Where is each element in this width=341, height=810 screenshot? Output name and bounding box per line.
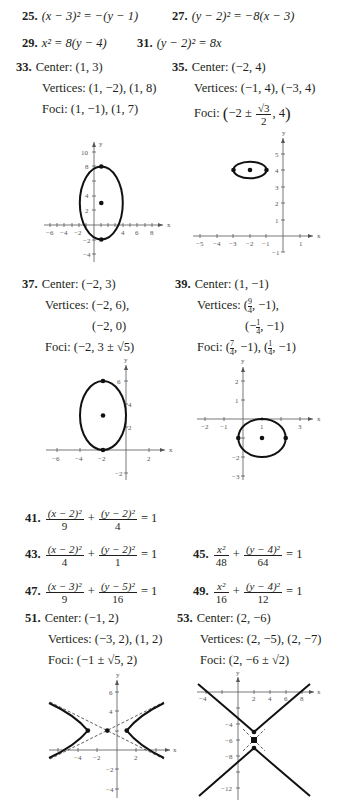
answer-number: 43. (25, 547, 41, 561)
answer-number: 25. (22, 9, 38, 23)
y-tick-label: 1 (235, 397, 239, 405)
x-tick-label: 2 (134, 754, 138, 762)
answer-47: 47.(x − 3)²9 + (y − 5)²16 = 1 (25, 575, 157, 607)
answer-31: 31.(y − 2)² = 8x (137, 36, 222, 50)
answer-49: 49.x²16 + (y − 4)²12 = 1 (193, 575, 302, 607)
y-tick-label: −4 (106, 786, 114, 794)
vertex-value: , −1) (260, 319, 284, 333)
foci-label: Foci: (194, 106, 220, 120)
numerator: x² (214, 580, 229, 593)
x-tick-label: 6 (135, 229, 139, 237)
x-tick-label: 8 (150, 229, 154, 237)
fraction: (x − 3)²9 (46, 580, 84, 605)
x-tick-label: −4 (74, 754, 82, 762)
answer-35-center: 35.Center: (−2, 4) (172, 60, 266, 74)
vertices-label: Vertices: (197, 298, 241, 312)
x-tick-label: 4 (268, 695, 272, 703)
foci-value: −2 ± (229, 106, 252, 120)
x-axis-label: x (317, 415, 321, 423)
answer-equation: (x − 3)² = −(y − 1) (42, 9, 138, 23)
x-tick-label: −4 (60, 229, 68, 237)
x-tick-label: −4 (75, 455, 83, 463)
answer-43: 43.(x − 2)²4 + (y − 2)²1 = 1 (25, 538, 157, 570)
equation-rhs: = 1 (141, 584, 157, 598)
numerator: (x − 3)² (46, 580, 84, 593)
fraction: (x − 2)²4 (46, 543, 84, 568)
x-tick-label: −5 (196, 240, 204, 248)
answer-39-vertices-2: (−14, −1) (245, 319, 284, 336)
denominator: 64 (244, 556, 282, 568)
answer-51-foci: Foci: (−1 ± √5, 2) (48, 653, 137, 667)
denominator: 9 (46, 593, 84, 605)
x-tick-label: 1 (260, 423, 264, 431)
center-text: Center: (1, 3) (36, 60, 103, 74)
answer-number: 29. (22, 36, 38, 50)
answer-33-vertices: Vertices: (1, −2), (1, 8) (42, 81, 156, 95)
y-tick-label: −6 (225, 737, 233, 745)
denominator: 12 (244, 593, 282, 605)
y-tick-label: 2 (275, 200, 279, 208)
answer-number: 37. (22, 277, 38, 291)
numerator: (y − 4)² (244, 543, 282, 556)
x-tick-label: −6 (52, 455, 60, 463)
x-tick-label: 8 (300, 695, 304, 703)
answer-number: 35. (172, 60, 188, 74)
equation-rhs: = 1 (286, 547, 302, 561)
y-tick-label: 2 (128, 424, 132, 432)
x-tick-label: 2 (147, 455, 151, 463)
y-tick-label: −8 (225, 753, 233, 761)
y-tick-label: 2 (235, 378, 239, 386)
y-axis-label: y (236, 669, 240, 677)
fraction: (y − 2)²1 (99, 543, 137, 568)
y-tick-label: 10 (81, 149, 89, 157)
denominator: 4 (46, 556, 84, 568)
answer-37-vertices-2: (−2, 0) (92, 319, 126, 333)
answer-45: 45.x²48 + (y − 4)²64 = 1 (193, 538, 302, 570)
foci-value: , −1), ( (234, 340, 268, 354)
numerator: (y − 4)² (244, 580, 282, 593)
y-tick-label: 3 (275, 184, 279, 192)
answer-equation: (y − 2)² = 8x (157, 36, 222, 50)
answer-37-foci: Foci: (−2, 3 ± √5) (45, 340, 134, 354)
x-tick-label: 2 (252, 695, 256, 703)
x-tick-label: −2 (74, 229, 82, 237)
y-axis-label: y (99, 140, 103, 148)
numerator: x² (214, 543, 229, 556)
fraction: (x − 2)²9 (46, 507, 84, 532)
x-tick-label: −6 (46, 229, 54, 237)
y-tick-label: −2 (106, 766, 114, 774)
answer-29: 29.x² = 8(y − 4) (22, 36, 107, 50)
fraction: √32 (256, 102, 272, 127)
center-text: Center: (2, −6) (197, 611, 271, 625)
answer-number: 49. (193, 584, 209, 598)
numerator: (y − 2)² (99, 507, 137, 520)
answer-51-vertices: Vertices: (−3, 2), (1, 2) (48, 632, 162, 646)
answer-33-center: 33.Center: (1, 3) (16, 60, 103, 74)
answer-number: 53. (177, 611, 193, 625)
denominator: 48 (214, 556, 229, 568)
equation-rhs: = 1 (141, 511, 157, 525)
x-axis-label: x (167, 221, 171, 229)
denominator: 9 (46, 520, 84, 532)
x-tick-label: −2 (201, 423, 209, 431)
y-tick-label: 6 (109, 689, 113, 697)
fraction: (y − 5)²16 (99, 580, 137, 605)
y-tick-label: 4 (85, 192, 89, 200)
answer-53-vertices: Vertices: (2, −5), (2, −7) (200, 632, 321, 646)
answer-number: 27. (172, 9, 188, 23)
x-axis-label: x (173, 746, 177, 754)
vertex-value: (− (245, 319, 256, 333)
y-tick-label: 1 (275, 217, 279, 225)
y-tick-label: −2 (115, 470, 123, 478)
fraction: x²48 (214, 543, 229, 568)
center-text: Center: (−1, 2) (45, 611, 119, 625)
answer-39-vertices: Vertices: (94, −1), (197, 298, 279, 315)
y-tick-label: −4 (225, 721, 233, 729)
answer-39-center: 39.Center: (1, −1) (175, 277, 269, 291)
y-tick-label: 2 (85, 207, 89, 215)
denominator: 2 (256, 115, 272, 127)
x-tick-label: 3 (298, 423, 302, 431)
answer-number: 41. (25, 511, 41, 525)
foci-value: , 4 (272, 106, 285, 120)
answer-37-center: 37.Center: (−2, 3) (22, 277, 116, 291)
